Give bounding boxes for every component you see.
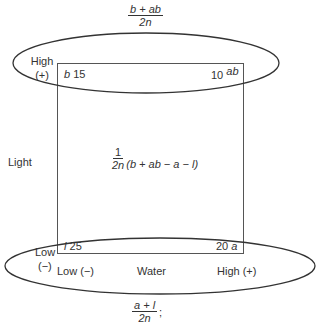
corner-top-right-value: 10 xyxy=(211,69,223,81)
bottom-fraction-suffix: ; xyxy=(159,306,162,318)
corner-top-left-symbol: b xyxy=(64,68,70,80)
light-high-label: High xyxy=(28,55,56,67)
top-fraction-denominator: 2n xyxy=(139,16,151,28)
corner-top-left: b 15 xyxy=(64,68,85,80)
light-low-label: Low xyxy=(35,246,55,258)
bottom-fraction: a + l 2n xyxy=(132,299,157,324)
center-expression: 1 2n (b + ab − a − l) xyxy=(112,146,198,171)
light-high-sign: (+) xyxy=(28,69,56,81)
light-low-sign: (−) xyxy=(38,260,52,272)
top-fraction-numerator: b + ab xyxy=(128,3,163,16)
corner-bottom-right: 20 a xyxy=(216,240,237,252)
corner-bottom-right-symbol: a xyxy=(231,240,237,252)
light-axis-label: Light xyxy=(8,156,32,168)
center-fraction: 1 2n xyxy=(112,146,124,171)
center-fraction-numerator: 1 xyxy=(113,146,123,159)
water-axis-label: Water xyxy=(137,265,166,277)
top-fraction: b + ab 2n xyxy=(128,3,163,28)
water-high-label: High (+) xyxy=(217,265,256,277)
corner-top-right-symbol: ab xyxy=(226,65,238,77)
corner-bottom-left: l 25 xyxy=(64,240,82,252)
bottom-fraction-group: a + l 2n ; xyxy=(132,299,162,324)
corner-bottom-left-symbol: l xyxy=(64,240,66,252)
corner-top-left-value: 15 xyxy=(73,68,85,80)
bottom-fraction-numerator: a + l xyxy=(132,299,157,312)
water-low-label: Low (−) xyxy=(57,265,94,277)
bottom-fraction-denominator: 2n xyxy=(138,312,150,324)
center-expression-body: (b + ab − a − l) xyxy=(126,158,198,170)
corner-bottom-right-value: 20 xyxy=(216,240,228,252)
corner-bottom-left-value: 25 xyxy=(70,240,82,252)
corner-top-right: 10 ab xyxy=(211,69,239,81)
center-fraction-denominator: 2n xyxy=(112,159,124,171)
